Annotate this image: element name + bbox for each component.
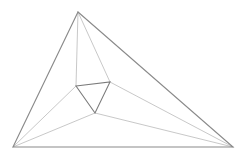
inner-triangle [76, 82, 110, 113]
outer-triangle [13, 12, 233, 147]
apex-to-inner-left-line [76, 12, 78, 86]
bottom-right-to-inner-right-line [110, 82, 233, 147]
triangle-subdivision-figure [0, 0, 246, 161]
figure-canvas [0, 0, 246, 161]
bottom-right-to-inner-bottom-line [95, 113, 233, 147]
bottom-left-to-inner-bottom-line [13, 113, 95, 147]
bottom-left-to-inner-left-line [13, 86, 76, 147]
apex-to-inner-right-line [78, 12, 110, 82]
